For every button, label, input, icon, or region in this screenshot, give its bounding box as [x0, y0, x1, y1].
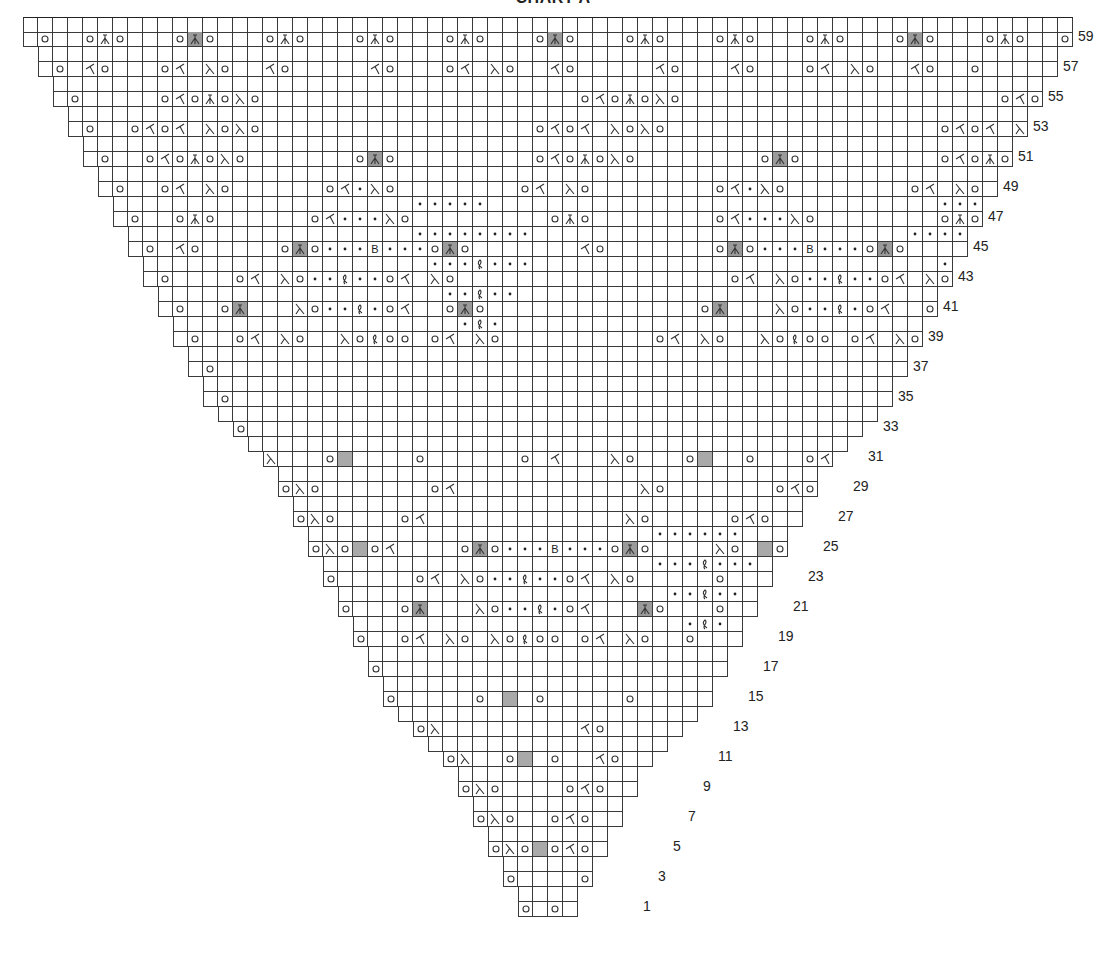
chart-cell — [848, 107, 863, 122]
chart-cell — [698, 77, 713, 92]
chart-cell — [188, 302, 203, 317]
chart-cell — [668, 18, 683, 33]
yarn-over-cell — [773, 542, 788, 557]
chart-cell — [713, 122, 728, 137]
yarn-over-icon — [173, 302, 187, 316]
chart-cell — [593, 437, 608, 452]
yarn-over-icon — [218, 182, 232, 196]
chart-cell — [533, 722, 548, 737]
chart-cell — [503, 197, 518, 212]
chart-cell — [293, 257, 308, 272]
chart-cell — [428, 407, 443, 422]
chart-cell — [518, 92, 533, 107]
chart-cell — [248, 77, 263, 92]
yarn-over-icon — [369, 662, 383, 676]
chart-cell — [458, 182, 473, 197]
chart-cell — [833, 107, 848, 122]
chart-cell — [653, 77, 668, 92]
chart-cell — [743, 107, 758, 122]
twisted-stitch-icon — [473, 257, 487, 271]
chart-cell — [623, 587, 638, 602]
chart-cell — [98, 47, 113, 62]
chart-cell — [353, 47, 368, 62]
chart-cell — [638, 707, 653, 722]
chart-cell — [548, 197, 563, 212]
yarn-over-icon — [788, 152, 802, 166]
chart-cell — [353, 482, 368, 497]
chart-cell — [773, 197, 788, 212]
chart-cell — [398, 437, 413, 452]
yarn-over-icon — [458, 632, 472, 646]
chart-cell — [488, 422, 503, 437]
chart-row-12 — [428, 737, 668, 752]
chart-cell — [353, 407, 368, 422]
yarn-over-icon — [308, 212, 322, 226]
chart-cell — [188, 347, 203, 362]
chart-cell — [683, 647, 698, 662]
chart-cell — [593, 512, 608, 527]
chart-cell — [488, 92, 503, 107]
chart-cell — [323, 392, 338, 407]
chart-cell — [788, 77, 803, 92]
row-number-label: 11 — [718, 748, 733, 764]
chart-cell — [173, 227, 188, 242]
chart-cell — [503, 827, 518, 842]
k2tog-icon — [923, 182, 937, 196]
chart-cell — [458, 722, 473, 737]
chart-cell — [413, 617, 428, 632]
chart-cell — [548, 302, 563, 317]
yarn-over-cell — [368, 542, 383, 557]
yarn-over-cell — [638, 632, 653, 647]
chart-cell — [563, 77, 578, 92]
yarn-over-cell — [548, 902, 563, 917]
chart-cell — [518, 812, 533, 827]
chart-cell — [533, 512, 548, 527]
chart-cell — [878, 227, 893, 242]
ssk-icon — [233, 92, 247, 106]
yarn-over-cell — [773, 332, 788, 347]
chart-cell — [638, 467, 653, 482]
chart-cell — [698, 92, 713, 107]
chart-cell — [458, 272, 473, 287]
ssk-cell — [293, 302, 308, 317]
purl-cell — [443, 257, 458, 272]
chart-cell — [293, 452, 308, 467]
chart-cell — [218, 18, 233, 33]
chart-cell — [533, 902, 548, 917]
chart-cell — [683, 212, 698, 227]
chart-cell — [878, 212, 893, 227]
purl-icon — [668, 527, 682, 541]
chart-cell — [848, 392, 863, 407]
chart-cell — [638, 677, 653, 692]
chart-cell — [893, 302, 908, 317]
chart-cell — [653, 407, 668, 422]
chart-cell — [173, 167, 188, 182]
chart-cell — [323, 332, 338, 347]
ssk-cell — [488, 62, 503, 77]
purl-icon — [353, 242, 367, 256]
purl-icon — [338, 302, 352, 316]
chart-cell — [608, 287, 623, 302]
purl-cell — [668, 527, 683, 542]
k2tog-cell — [413, 632, 428, 647]
yarn-over-cell — [533, 32, 548, 47]
chart-cell — [323, 482, 338, 497]
chart-cell — [953, 47, 968, 62]
chart-cell — [563, 227, 578, 242]
chart-cell — [353, 167, 368, 182]
chart-cell — [938, 137, 953, 152]
twisted-stitch-cell — [788, 332, 803, 347]
ssk-icon — [443, 632, 457, 646]
chart-cell — [398, 257, 413, 272]
chart-cell — [563, 377, 578, 392]
chart-cell — [758, 407, 773, 422]
chart-cell — [443, 662, 458, 677]
chart-cell — [653, 437, 668, 452]
yarn-over-icon — [428, 332, 442, 346]
yarn-over-cell — [908, 332, 923, 347]
yarn-over-icon — [1028, 92, 1042, 106]
yarn-over-cell — [968, 122, 983, 137]
yarn-over-icon — [459, 782, 473, 796]
chart-cell — [293, 107, 308, 122]
chart-cell — [278, 452, 293, 467]
